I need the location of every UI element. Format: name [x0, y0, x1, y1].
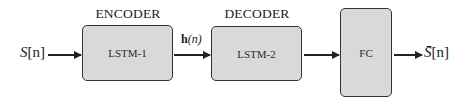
decoder-title: DECODER: [211, 6, 303, 22]
output-var: S̄: [424, 44, 432, 60]
arrow-fc-to-output: [394, 54, 422, 56]
output-signal-label: S̄[n]: [424, 44, 449, 61]
arrow-input-to-encoder: [48, 54, 81, 56]
decoder-lstm2-block: LSTM-2: [211, 26, 302, 81]
encoder-lstm1-block: LSTM-1: [82, 25, 173, 81]
encoder-block-label: LSTM-1: [108, 47, 147, 59]
hidden-var: h: [181, 32, 188, 46]
input-index: [n]: [28, 44, 46, 60]
input-signal-label: S[n]: [20, 44, 45, 61]
output-index: [n]: [432, 44, 450, 60]
encoder-title: ENCODER: [82, 6, 174, 22]
fc-block: FC: [340, 8, 392, 97]
arrow-encoder-to-decoder: [174, 54, 210, 56]
hidden-arg: (n): [188, 32, 202, 46]
arrow-decoder-to-fc: [304, 54, 339, 56]
fc-block-label: FC: [359, 47, 372, 59]
input-var: S: [20, 44, 28, 60]
decoder-block-label: LSTM-2: [237, 48, 276, 60]
hidden-state-label: h(n): [181, 32, 202, 47]
